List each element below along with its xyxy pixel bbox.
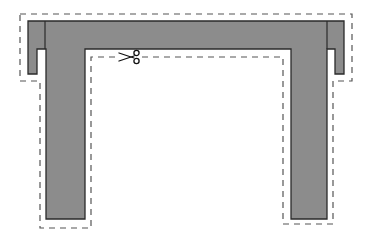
cut-diagram <box>0 0 371 244</box>
scissors-icon <box>117 50 141 64</box>
u-shaped-wall <box>28 21 344 219</box>
